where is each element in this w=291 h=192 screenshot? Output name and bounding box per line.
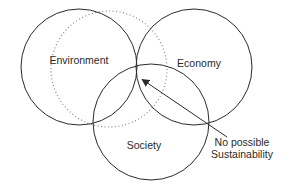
society-label: Society [127, 139, 162, 151]
annotation-line-1: No possible [215, 136, 270, 148]
dotted-circle [51, 11, 167, 127]
society-circle [93, 64, 209, 180]
sustainability-venn-diagram: Environment Economy Society No possible … [0, 0, 291, 192]
annotation-arrow [143, 80, 227, 137]
annotation-line-2: Sustainability [211, 148, 274, 160]
economy-label: Economy [177, 57, 222, 69]
environment-circle [21, 9, 137, 125]
environment-label: Environment [50, 54, 109, 66]
